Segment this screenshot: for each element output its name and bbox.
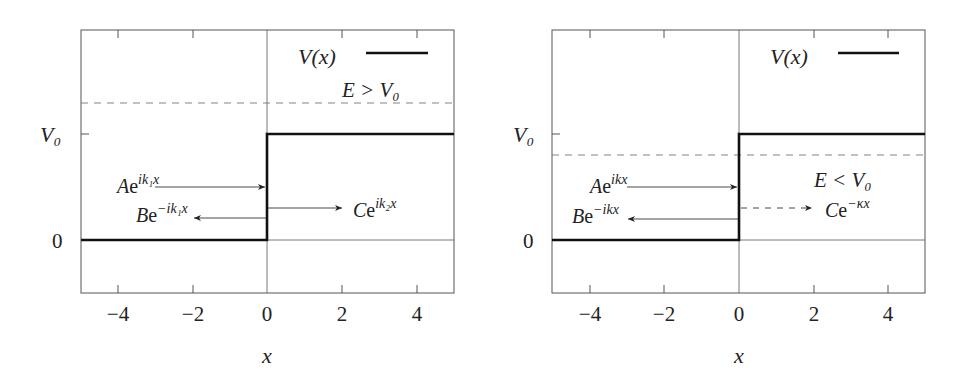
right-reflected-label: Be−ikx: [572, 202, 620, 227]
left-incident-label: Aeik₁x: [115, 172, 160, 197]
right-ticks: [552, 30, 888, 293]
left-top-ticks: [81, 30, 417, 293]
svg-text:−4: −4: [107, 302, 130, 326]
left-energy-label: E > V₀: [341, 78, 400, 102]
svg-text:4: 4: [412, 302, 423, 326]
left-transmitted-label: Ceik₂x: [353, 196, 397, 221]
right-energy-label: E < V₀: [813, 168, 872, 192]
svg-text:−2: −2: [653, 302, 675, 326]
right-transmitted-label: Ce−κx: [825, 196, 870, 221]
left-ylabel-v0: V₀: [40, 122, 61, 147]
figure: V(x) E > V₀ V₀ 0 −4 −2 0 2 4 x Aeik₁x Be…: [0, 0, 963, 388]
right-legend-label: V(x): [770, 44, 808, 69]
right-plot: V(x) E < V₀ V₀ 0 −4 −2 0 2 4 x Aeikx Be−…: [513, 30, 925, 368]
svg-text:2: 2: [809, 302, 820, 326]
right-incident-label: Aeikx: [588, 172, 628, 197]
right-ylabel-v0: V₀: [513, 122, 534, 147]
svg-text:4: 4: [883, 302, 894, 326]
svg-text:−2: −2: [182, 302, 204, 326]
right-ylabel-zero: 0: [523, 229, 534, 253]
right-x-ticklabels: −4 −2 0 2 4: [579, 302, 894, 326]
svg-text:2: 2: [337, 302, 348, 326]
right-xlabel: x: [733, 343, 744, 368]
svg-text:−4: −4: [579, 302, 602, 326]
left-reflected-label: Be−ik₁x: [136, 201, 189, 226]
left-xlabel: x: [261, 343, 272, 368]
left-legend-label: V(x): [298, 44, 336, 69]
left-x-ticklabels: −4 −2 0 2 4: [107, 302, 423, 326]
left-ylabel-zero: 0: [52, 229, 63, 253]
svg-text:0: 0: [734, 302, 745, 326]
left-plot: V(x) E > V₀ V₀ 0 −4 −2 0 2 4 x Aeik₁x Be…: [40, 30, 454, 368]
svg-text:0: 0: [262, 302, 273, 326]
